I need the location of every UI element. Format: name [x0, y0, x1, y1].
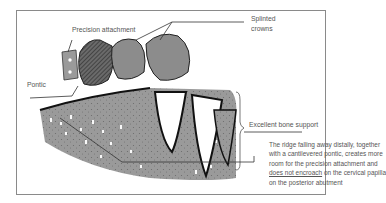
description-line-2: with a cantilevered pontic, creates more: [269, 149, 376, 158]
description-line-3: room for the precision attachment and: [269, 159, 376, 168]
label-bone-support: Excellent bone support: [249, 120, 318, 130]
precision-attachment: [62, 50, 78, 80]
crown-molar: [146, 34, 190, 80]
label-precision-attachment: Precision attachment: [72, 25, 135, 35]
description-paragraph: The ridge falling away distally, togethe…: [269, 140, 376, 187]
underlined-phrase: does not encroach: [269, 168, 322, 177]
crown-premolar: [112, 39, 145, 79]
description-line-1: The ridge falling away distally, togethe…: [269, 140, 376, 149]
label-splinted-line2: crowns: [251, 24, 273, 34]
label-pontic: Pontic: [27, 80, 46, 90]
description-line-4-rest: on the cervical papilla: [322, 168, 386, 177]
pontic: [79, 40, 114, 86]
label-splinted-line1: Splinted: [251, 14, 276, 24]
description-line-4: does not encroach on the cervical papill…: [269, 168, 376, 177]
description-line-5: on the posterior abutment: [269, 178, 376, 187]
bone-support-brace: [236, 92, 244, 170]
